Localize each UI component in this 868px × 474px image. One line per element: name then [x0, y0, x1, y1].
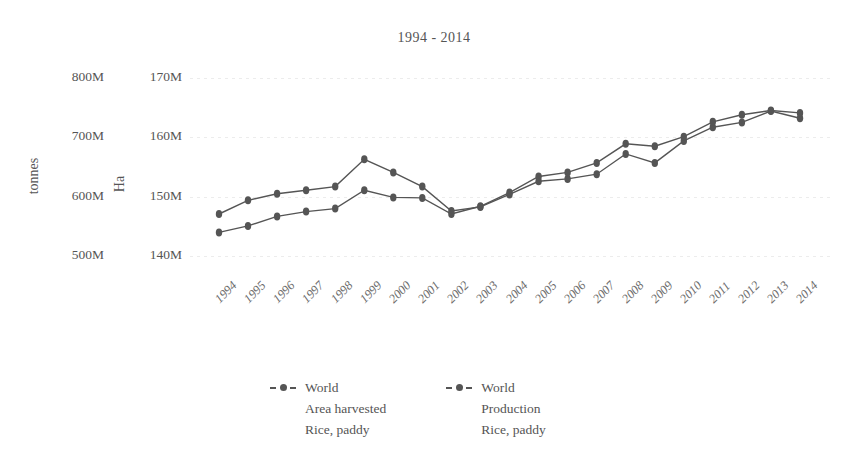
- data-point: [419, 183, 425, 191]
- data-point: [623, 150, 629, 158]
- axis-tick-label: 700M: [40, 128, 104, 144]
- x-tick-label: 2010: [677, 278, 705, 306]
- data-point: [477, 202, 483, 210]
- legend-marker-icon: [270, 380, 296, 396]
- x-tick-label: 2013: [764, 278, 792, 306]
- legend-label: WorldArea harvestedRice, paddy: [305, 378, 386, 441]
- legend-marker-icon: [446, 380, 472, 396]
- x-tick-label: 2001: [415, 278, 443, 306]
- x-tick-label: 2002: [444, 278, 472, 306]
- axis-tick-label: 150M: [118, 188, 182, 204]
- chart-legend: WorldArea harvestedRice, paddyWorldProdu…: [270, 378, 690, 441]
- x-tick-label: 1994: [212, 278, 240, 306]
- plot-area: [190, 60, 830, 280]
- x-tick-label: 2003: [473, 278, 501, 306]
- data-point: [419, 194, 425, 202]
- x-tick-label: 2011: [706, 279, 734, 307]
- data-point: [390, 193, 396, 201]
- legend-label-line2: Production: [481, 399, 545, 420]
- x-tick-label: 2008: [619, 278, 647, 306]
- x-tick-label: 1995: [241, 278, 269, 306]
- data-point: [710, 118, 716, 126]
- axis-tick-label: 600M: [40, 188, 104, 204]
- x-tick-label: 2012: [735, 278, 763, 306]
- axis-tick-label: 170M: [118, 69, 182, 85]
- x-tick-label: 2007: [590, 278, 618, 306]
- data-point: [739, 118, 745, 126]
- series-layer: [190, 60, 830, 280]
- data-point: [216, 228, 222, 236]
- legend-entry-0[interactable]: WorldArea harvestedRice, paddy: [270, 378, 386, 441]
- data-point: [216, 210, 222, 218]
- x-tick-label: 2014: [793, 278, 821, 306]
- x-tick-label: 2005: [532, 278, 560, 306]
- data-point: [274, 190, 280, 198]
- data-point: [332, 183, 338, 191]
- legend-entry-1[interactable]: WorldProductionRice, paddy: [446, 378, 545, 441]
- data-point: [506, 189, 512, 197]
- legend-label-line1: World: [305, 378, 386, 399]
- legend-label-line1: World: [481, 378, 545, 399]
- data-point: [245, 222, 251, 230]
- axis-tick-label: 140M: [118, 247, 182, 263]
- data-point: [361, 186, 367, 194]
- legend-label-line3: Rice, paddy: [305, 420, 386, 441]
- x-tick-label: 1998: [328, 278, 356, 306]
- axis-tick-label: 800M: [40, 69, 104, 85]
- data-point: [361, 155, 367, 163]
- data-point: [594, 159, 600, 167]
- data-point: [535, 173, 541, 181]
- data-point: [245, 196, 251, 204]
- data-point: [652, 142, 658, 150]
- x-tick-label: 2006: [561, 278, 589, 306]
- x-tick-label: 1997: [299, 278, 327, 306]
- x-tick-label: 1999: [357, 278, 385, 306]
- legend-label-line3: Rice, paddy: [481, 420, 545, 441]
- legend-label-line2: Area harvested: [305, 399, 386, 420]
- chart-container: 1994 - 2014 tonnes Ha 500M600M700M800M 1…: [0, 0, 868, 474]
- left-axis-title: tonnes: [26, 136, 42, 216]
- axis-tick-label: 500M: [40, 247, 104, 263]
- data-point: [739, 111, 745, 119]
- axis-tick-label: 160M: [118, 128, 182, 144]
- data-point: [448, 210, 454, 218]
- x-tick-label: 2000: [386, 278, 414, 306]
- data-point: [768, 107, 774, 115]
- data-point: [797, 109, 803, 117]
- x-tick-label: 2009: [648, 278, 676, 306]
- x-tick-label: 1996: [270, 278, 298, 306]
- legend-label: WorldProductionRice, paddy: [481, 378, 545, 441]
- data-point: [564, 168, 570, 176]
- right-axis-title: Ha: [112, 144, 128, 224]
- data-point: [332, 205, 338, 213]
- x-tick-label: 2004: [503, 278, 531, 306]
- data-point: [681, 133, 687, 141]
- data-point: [303, 208, 309, 216]
- data-point: [390, 168, 396, 176]
- data-point: [594, 170, 600, 178]
- chart-title: 1994 - 2014: [0, 30, 868, 46]
- data-point: [274, 212, 280, 220]
- data-point: [623, 140, 629, 148]
- data-point: [652, 159, 658, 167]
- data-point: [303, 186, 309, 194]
